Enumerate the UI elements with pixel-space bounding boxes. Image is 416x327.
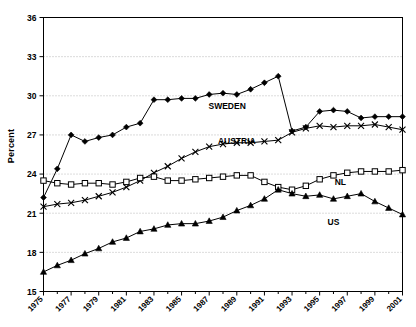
marker-square — [165, 178, 170, 183]
marker-diamond — [358, 115, 364, 121]
x-tick-label: 1983 — [136, 294, 155, 313]
y-tick-label: 27 — [27, 130, 37, 140]
marker-square — [110, 182, 115, 187]
marker-square — [96, 181, 101, 186]
marker-diamond — [96, 135, 102, 141]
marker-triangle — [372, 198, 378, 204]
marker-diamond — [192, 95, 198, 101]
marker-diamond — [165, 97, 171, 103]
marker-triangle — [386, 205, 392, 211]
y-tick-label: 21 — [27, 209, 37, 219]
marker-diamond — [262, 80, 268, 86]
marker-diamond — [123, 124, 129, 130]
marker-diamond — [206, 92, 212, 98]
x-tick-label: 1977 — [54, 294, 73, 313]
chart-container: 1518212427303336197519771979198119831985… — [0, 0, 416, 327]
marker-diamond — [248, 86, 254, 92]
marker-triangle — [123, 235, 129, 241]
marker-square — [372, 169, 377, 174]
line-chart: 1518212427303336197519771979198119831985… — [0, 0, 416, 327]
x-tick-label: 1985 — [164, 294, 183, 313]
series-us: US — [40, 187, 405, 275]
x-tick-label: 1997 — [330, 294, 349, 313]
marker-diamond — [275, 73, 281, 79]
x-tick-label: 1995 — [302, 294, 321, 313]
y-tick-label: 33 — [27, 52, 37, 62]
marker-square — [151, 174, 156, 179]
marker-diamond — [331, 107, 337, 113]
x-axis: 1975197719791981198319851987198919911993… — [26, 292, 404, 314]
series-line — [44, 190, 403, 272]
x-tick-label: 1981 — [109, 294, 128, 313]
marker-square — [179, 178, 184, 183]
marker-diamond — [372, 114, 378, 120]
series-nl: NL — [41, 167, 405, 192]
marker-square — [68, 182, 73, 187]
marker-triangle — [68, 257, 74, 263]
marker-triangle — [220, 214, 226, 220]
series-label: US — [328, 217, 340, 227]
marker-triangle — [248, 202, 254, 208]
x-tick-label: 1975 — [26, 294, 45, 313]
x-tick-label: 1989 — [219, 294, 238, 313]
y-tick-label: 24 — [27, 169, 37, 179]
y-tick-label: 36 — [27, 13, 37, 23]
grid-lines — [44, 57, 403, 253]
marker-square — [358, 169, 363, 174]
marker-triangle — [317, 192, 323, 198]
marker-diamond — [400, 114, 406, 120]
marker-square — [262, 179, 267, 184]
y-axis: 1518212427303336 — [27, 13, 43, 297]
marker-square — [41, 178, 46, 183]
marker-diamond — [386, 114, 392, 120]
x-tick-label: 1999 — [357, 294, 376, 313]
x-tick-label: 1979 — [81, 294, 100, 313]
series-label: SWEDEN — [208, 101, 245, 111]
marker-diamond — [54, 166, 60, 172]
series-label: AUSTRIA — [218, 136, 256, 146]
marker-diamond — [82, 139, 88, 145]
marker-diamond — [110, 132, 116, 138]
marker-square — [124, 179, 129, 184]
x-tick-label: 1987 — [192, 294, 211, 313]
marker-diamond — [234, 92, 240, 98]
marker-square — [345, 170, 350, 175]
marker-diamond — [68, 132, 74, 138]
marker-diamond — [151, 97, 157, 103]
marker-square — [82, 181, 87, 186]
marker-triangle — [399, 211, 405, 217]
marker-square — [400, 167, 405, 172]
marker-square — [193, 177, 198, 182]
marker-triangle — [261, 196, 267, 202]
marker-triangle — [358, 190, 364, 196]
marker-square — [220, 174, 225, 179]
marker-square — [234, 173, 239, 178]
y-tick-label: 15 — [27, 287, 37, 297]
y-tick-label: 30 — [27, 91, 37, 101]
x-tick-label: 1993 — [275, 294, 294, 313]
marker-diamond — [41, 195, 47, 201]
marker-square — [137, 175, 142, 180]
marker-square — [386, 169, 391, 174]
marker-diamond — [137, 120, 143, 126]
x-tick-label: 1991 — [247, 294, 266, 313]
marker-diamond — [220, 90, 226, 96]
marker-square — [317, 177, 322, 182]
marker-square — [206, 175, 211, 180]
marker-square — [248, 173, 253, 178]
x-tick-label: 2001 — [385, 294, 404, 313]
marker-square — [55, 181, 60, 186]
marker-triangle — [40, 269, 46, 275]
series-label: NL — [335, 177, 346, 187]
marker-diamond — [179, 95, 185, 101]
y-tick-label: 18 — [27, 248, 37, 258]
marker-square — [303, 183, 308, 188]
marker-diamond — [344, 109, 350, 115]
marker-triangle — [96, 245, 102, 251]
